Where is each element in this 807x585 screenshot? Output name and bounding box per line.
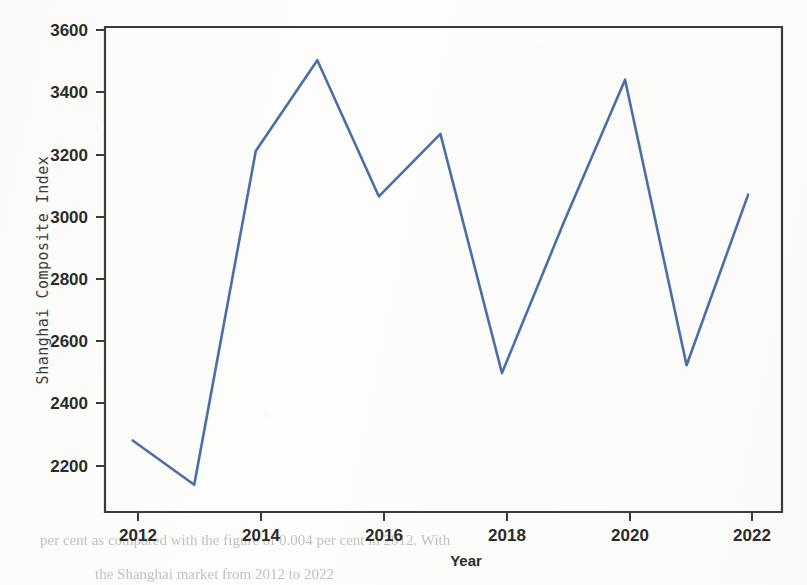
x-axis-ticks bbox=[138, 512, 752, 521]
y-tick-label: 2600 bbox=[50, 332, 88, 351]
data-series-line bbox=[133, 60, 748, 485]
y-tick-label: 3200 bbox=[50, 146, 88, 165]
y-axis-title: Shanghai Composite Index bbox=[34, 156, 52, 385]
x-tick-label: 2018 bbox=[488, 526, 526, 545]
plot-frame bbox=[105, 27, 782, 512]
y-tick-label: 3600 bbox=[50, 21, 88, 40]
x-axis-title: Year bbox=[450, 552, 482, 569]
y-axis-ticks bbox=[96, 30, 105, 466]
x-tick-label: 2022 bbox=[733, 526, 771, 545]
chart-page: 3600 3400 3200 3000 2800 2600 2400 2200 … bbox=[0, 0, 807, 585]
x-tick-label: 2020 bbox=[611, 526, 649, 545]
y-tick-label: 2200 bbox=[50, 457, 88, 476]
y-tick-label: 3000 bbox=[50, 208, 88, 227]
line-chart: 3600 3400 3200 3000 2800 2600 2400 2200 … bbox=[0, 0, 807, 585]
x-axis-tick-labels: 2012 2014 2016 2018 2020 2022 bbox=[119, 526, 771, 545]
x-tick-label: 2014 bbox=[242, 526, 280, 545]
x-tick-label: 2016 bbox=[365, 526, 403, 545]
y-tick-label: 2800 bbox=[50, 270, 88, 289]
y-axis-tick-labels: 3600 3400 3200 3000 2800 2600 2400 2200 bbox=[50, 21, 88, 476]
y-tick-label: 3400 bbox=[50, 83, 88, 102]
y-tick-label: 2400 bbox=[50, 394, 88, 413]
x-tick-label: 2012 bbox=[119, 526, 157, 545]
